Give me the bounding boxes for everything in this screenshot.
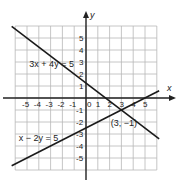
y-tick-label: -2: [76, 118, 84, 127]
x-tick-label: 5: [143, 100, 148, 109]
x-axis-label: x: [166, 83, 172, 93]
y-tick-label: 4: [79, 46, 84, 55]
y-tick-label: 1: [79, 82, 84, 91]
x-tick-label: 1: [96, 100, 101, 109]
x-tick-label: -3: [46, 100, 54, 109]
y-axis-arrow-icon: [83, 11, 89, 18]
x-axis-arrow-icon: [169, 95, 176, 101]
x-tick-label: -5: [22, 100, 30, 109]
y-tick-label: -1: [76, 106, 84, 115]
equation-label: 3x + 4y = 5: [29, 59, 74, 69]
intersection-label: (3, −1): [111, 118, 137, 128]
coordinate-plane: xy -5-4-3-2-101234554321-1-2-3-4-5 3x + …: [0, 0, 180, 186]
x-tick-label: -4: [34, 100, 42, 109]
x-tick-label: -2: [57, 100, 65, 109]
x-tick-label: 3: [119, 100, 124, 109]
y-tick-label: -5: [76, 154, 84, 163]
y-tick-label: 3: [79, 58, 84, 67]
y-tick-label: -4: [76, 142, 84, 151]
equation-label: x − 2y = 5: [19, 133, 59, 143]
y-axis-label: y: [89, 10, 95, 20]
y-tick-label: 5: [79, 34, 84, 43]
x-tick-label: 0: [87, 100, 92, 109]
